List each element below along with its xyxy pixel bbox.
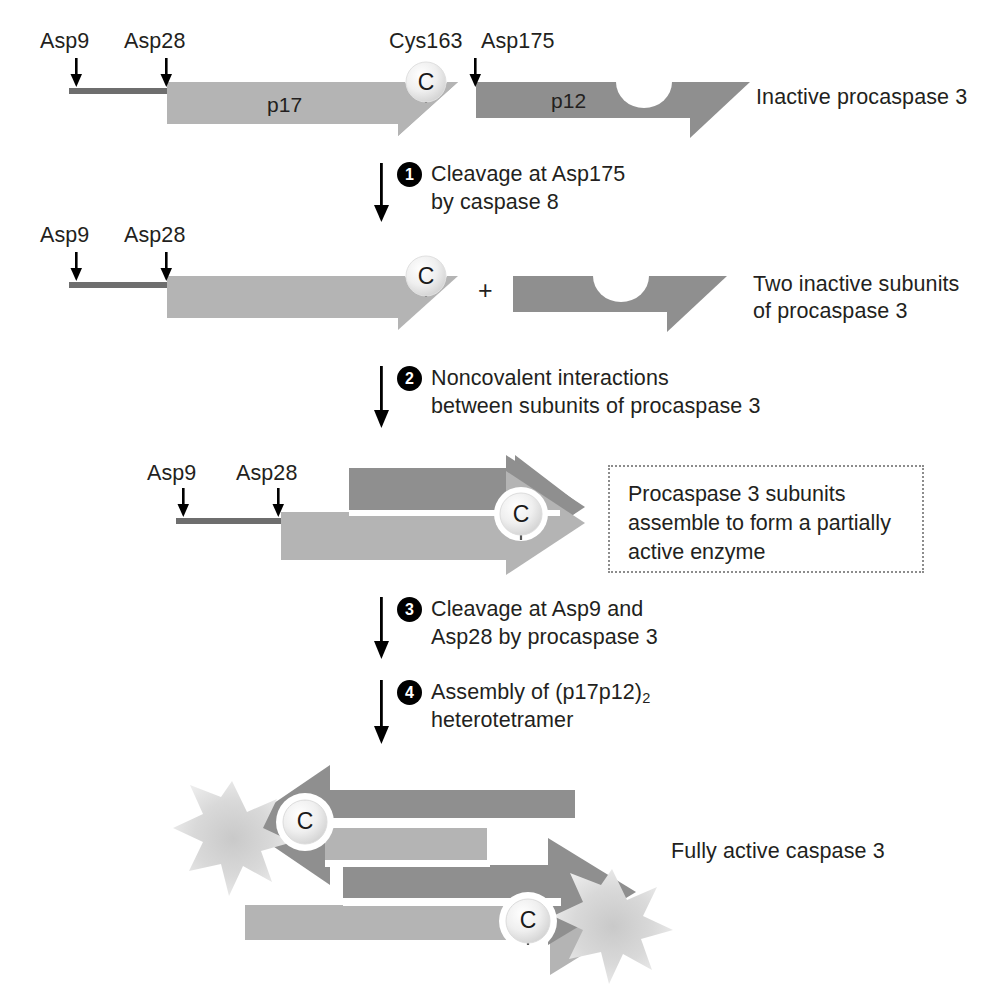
row3-p17-arrow-body <box>281 512 512 560</box>
step-4-subscript: 2 <box>642 690 650 706</box>
caption-two-inactive-subunits-line1: Two inactive subunits <box>753 271 959 298</box>
label-p17: p17 <box>267 92 302 118</box>
step-4-line-1: Assembly of (p17p12)2 <box>431 679 650 708</box>
step3-arrow <box>374 597 389 659</box>
row4-upper-light-arrow-body <box>325 828 487 860</box>
row1-p12-tail <box>690 82 750 138</box>
cys-letter-row2: C <box>414 265 438 288</box>
callout-line-1: Procaspase 3 subunits <box>628 480 846 510</box>
step-2-line-1: Noncovalent interactions <box>431 365 669 393</box>
label-cys163-row1: Cys163 <box>389 28 463 54</box>
step-1-line-1: Cleavage at Asp175 <box>431 161 625 189</box>
row2-site-arrows <box>71 252 173 281</box>
arrow-asp9-row2 <box>71 252 83 281</box>
step-3-line-1: Cleavage at Asp9 and <box>431 596 643 624</box>
step1-arrow <box>374 163 389 222</box>
label-asp9-row3: Asp9 <box>147 460 196 486</box>
step-4-line-1-text: Assembly of (p17p12) <box>431 680 642 704</box>
label-asp28-row3: Asp28 <box>236 460 297 486</box>
row2-subunits-shape <box>69 256 727 332</box>
label-asp28-row2: Asp28 <box>124 222 185 248</box>
step-badge-2: 2 <box>397 366 422 391</box>
label-asp9-row2: Asp9 <box>40 222 89 248</box>
cys-letter-row4-left: C <box>293 810 317 833</box>
callout-line-2: assemble to form a partially <box>628 509 891 539</box>
arrow-asp9-row3 <box>178 488 190 517</box>
step-2-line-2: between subunits of procaspase 3 <box>431 393 761 421</box>
callout-line-3: active enzyme <box>628 538 765 568</box>
caption-fully-active-caspase-3: Fully active caspase 3 <box>671 838 885 865</box>
label-p12: p12 <box>551 88 586 114</box>
step-4-line-2: heterotetramer <box>431 707 573 735</box>
label-asp28-row1: Asp28 <box>124 28 185 54</box>
label-asp9-row1: Asp9 <box>40 28 89 54</box>
cys-letter-row3: C <box>509 503 533 526</box>
row4-gap-2 <box>325 860 490 867</box>
arrow-asp9-row1 <box>71 58 83 87</box>
plus-sign-row2: + <box>478 275 493 306</box>
row2-p12-tail <box>667 276 727 332</box>
step-3-line-2: Asp28 by procaspase 3 <box>431 624 658 652</box>
row2-prodomain-line <box>69 282 167 288</box>
step-badge-3: 3 <box>397 597 422 622</box>
row3-p12-arrow-body <box>349 468 512 516</box>
row3-site-arrows <box>178 488 285 517</box>
caspase-activation-diagram: Asp9 Asp28 Cys163 Asp175 p17 p12 C Inact… <box>0 0 987 996</box>
row1-procaspase-shape <box>69 62 750 138</box>
row4-left-starburst <box>173 781 293 896</box>
cys-letter-row1: C <box>414 71 438 94</box>
step4-arrow <box>374 680 389 744</box>
row4-heterotetramer-shape <box>173 765 673 984</box>
row1-prodomain-line <box>69 88 167 94</box>
row4-upper-dark-arrow-body <box>325 790 575 818</box>
step-1-line-2: by caspase 8 <box>431 189 559 217</box>
row2-p17-block <box>167 276 402 318</box>
row4-gap-1 <box>325 818 577 828</box>
step-badge-4: 4 <box>397 680 422 705</box>
step-badge-1: 1 <box>397 162 422 187</box>
row3-prodomain-line <box>176 518 281 524</box>
caption-two-inactive-subunits-line2: of procaspase 3 <box>753 298 908 325</box>
label-asp175-row1: Asp175 <box>481 28 555 54</box>
step2-arrow <box>374 366 389 428</box>
caption-inactive-procaspase-3: Inactive procaspase 3 <box>756 84 967 111</box>
cys-letter-row4-right: C <box>516 909 540 932</box>
